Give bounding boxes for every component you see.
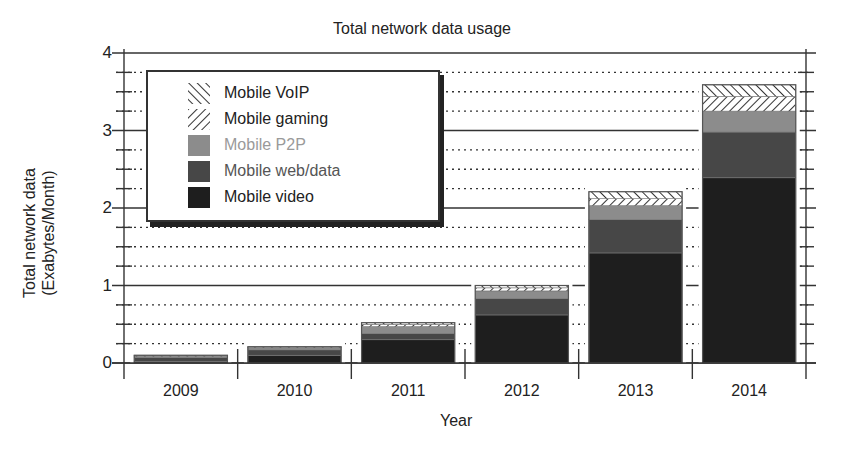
y-tick-label: 0 xyxy=(96,353,112,373)
x-tick-label: 2014 xyxy=(709,382,789,400)
bar-segment xyxy=(362,327,455,334)
bar-segment xyxy=(589,192,682,199)
bar-segment xyxy=(589,253,682,363)
bar-segment xyxy=(362,324,455,326)
legend-item-video: Mobile video xyxy=(188,186,314,208)
y-tick-label: 2 xyxy=(96,198,112,218)
p2p-swatch-icon xyxy=(188,135,210,156)
bar-segment xyxy=(703,132,796,178)
bar-segment xyxy=(703,85,796,97)
y-tick-label: 1 xyxy=(96,276,112,296)
x-tick-label: 2011 xyxy=(368,382,448,400)
x-tick-label: 2009 xyxy=(141,382,221,400)
legend: Mobile VoIP Mobile gaming Mobile P2P Mob… xyxy=(146,70,440,222)
y-axis-label: Total network data (Exabytes/Month) xyxy=(20,168,58,298)
bar-segment xyxy=(475,291,568,299)
x-tick-label: 2010 xyxy=(255,382,335,400)
web-data-swatch-icon xyxy=(188,161,210,182)
bar-segment xyxy=(475,299,568,315)
bar-segment xyxy=(134,358,227,362)
bar-segment xyxy=(475,288,568,291)
bar-segment xyxy=(362,340,455,363)
y-tick-label: 4 xyxy=(96,43,112,63)
legend-item-web-data: Mobile web/data xyxy=(188,160,341,182)
bar-segment xyxy=(362,334,455,340)
x-tick-label: 2012 xyxy=(482,382,562,400)
legend-item-p2p: Mobile P2P xyxy=(188,134,306,156)
bar-segment xyxy=(703,178,796,363)
diagonal-back-hatch-icon xyxy=(188,83,210,104)
bar-segment xyxy=(703,96,796,111)
bar-segment xyxy=(248,350,341,355)
video-swatch-icon xyxy=(188,187,210,208)
bar-segment xyxy=(703,111,796,132)
legend-item-voip: Mobile VoIP xyxy=(188,82,309,104)
diagonal-forward-hatch-icon xyxy=(188,109,210,130)
y-axis-label-line2: (Exabytes/Month) xyxy=(39,168,58,298)
bar-segment xyxy=(475,315,568,363)
chart-title: Total network data usage xyxy=(0,20,844,38)
x-tick-label: 2013 xyxy=(596,382,676,400)
y-axis-label-line1: Total network data xyxy=(20,168,39,298)
x-axis-label: Year xyxy=(440,412,472,430)
bar-segment xyxy=(248,355,341,363)
y-tick-label: 3 xyxy=(96,121,112,141)
bar-segment xyxy=(589,206,682,220)
bar-segment xyxy=(589,220,682,253)
legend-item-gaming: Mobile gaming xyxy=(188,108,328,130)
bar-segment xyxy=(589,199,682,206)
